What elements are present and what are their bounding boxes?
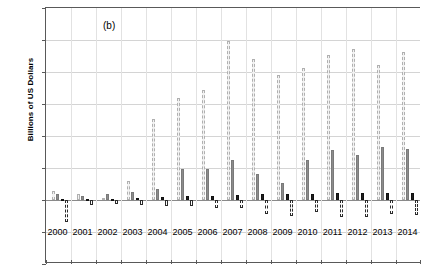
x-tick-mark-2011: [321, 260, 322, 264]
bar-series-3-2011: [336, 193, 339, 200]
bar-series-1-2010: [302, 68, 305, 200]
gridline-vertical-2005: [171, 8, 172, 262]
bar-series-3-2013: [386, 193, 389, 200]
bar-series-1-2011: [327, 55, 330, 200]
bar-series-1-2014: [402, 52, 405, 200]
x-tick-mark-2012: [346, 260, 347, 264]
bar-series-2-2000: [56, 194, 59, 200]
bar-series-3-2000: [61, 199, 64, 201]
x-tick-mark-2002: [96, 260, 97, 264]
bar-series-3-2001: [86, 199, 89, 201]
bar-series-1-2005: [177, 98, 180, 200]
bar-series-4-2012: [365, 200, 368, 217]
bar-series-4-2005: [190, 200, 193, 206]
x-tick-mark-2008: [246, 260, 247, 264]
bar-series-4-2007: [240, 200, 243, 208]
bar-series-1-2000: [52, 191, 55, 200]
x-tick-mark-2009: [271, 260, 272, 264]
bar-series-3-2006: [211, 196, 214, 200]
bar-series-4-2010: [315, 200, 318, 212]
bar-series-2-2007: [231, 160, 234, 200]
bar-series-2-2004: [156, 189, 159, 200]
y-tick-mark-300: [42, 8, 46, 9]
x-tick-mark-2014: [396, 260, 397, 264]
x-tick-mark-2013: [371, 260, 372, 264]
bar-series-2-2010: [306, 160, 309, 200]
bar-series-3-2004: [161, 197, 164, 200]
gridline-vertical-2009: [271, 8, 272, 262]
bar-series-3-2010: [311, 194, 314, 200]
bar-series-2-2003: [131, 192, 134, 200]
bar-series-2-2013: [381, 147, 384, 200]
bar-series-4-2013: [390, 200, 393, 214]
bar-series-1-2006: [202, 90, 205, 200]
gridline-250: [46, 40, 420, 41]
gridline-vertical-2008: [246, 8, 247, 262]
y-tick-mark-100: [42, 136, 46, 137]
y-tick-mark-150: [42, 104, 46, 105]
bar-series-4-2006: [215, 200, 218, 208]
gridline-150: [46, 104, 420, 105]
bar-series-1-2008: [252, 59, 255, 200]
y-tick-mark-0: [42, 200, 46, 201]
gridline-100: [46, 136, 420, 137]
gridline-vertical-2002: [96, 8, 97, 262]
bar-series-3-2012: [361, 193, 364, 200]
bar-series-3-2014: [411, 193, 414, 200]
bar-series-3-2007: [236, 195, 239, 200]
y-tick-mark-200: [42, 72, 46, 73]
gridline-vertical-2011: [321, 8, 322, 262]
y-tick-mark--100: [42, 264, 46, 265]
bar-series-1-2002: [102, 198, 105, 200]
y-tick-mark-50: [42, 168, 46, 169]
bar-series-3-2005: [186, 196, 189, 200]
bar-series-3-2003: [136, 198, 139, 200]
x-tick-mark-2010: [296, 260, 297, 264]
bar-series-4-2014: [415, 200, 418, 215]
bar-series-2-2002: [106, 194, 109, 200]
bar-series-1-2004: [152, 119, 155, 200]
bar-series-4-2002: [115, 200, 118, 204]
bar-series-2-2014: [406, 149, 409, 200]
bar-series-2-2005: [181, 169, 184, 200]
y-tick-mark-250: [42, 40, 46, 41]
bar-series-1-2013: [377, 65, 380, 200]
x-tick-mark-2003: [121, 260, 122, 264]
x-tick-mark-2006: [196, 260, 197, 264]
gridline-vertical-2001: [71, 8, 72, 262]
bar-series-2-2012: [356, 155, 359, 200]
gridline-vertical-2012: [346, 8, 347, 262]
x-tick-mark-end: [420, 260, 421, 264]
bar-series-4-2011: [340, 200, 343, 217]
gridline-200: [46, 72, 420, 73]
bar-series-4-2004: [165, 200, 168, 206]
bar-series-1-2003: [127, 181, 130, 200]
panel-label: (b): [103, 20, 115, 31]
bar-series-1-2007: [227, 41, 230, 200]
x-tick-mark-2007: [221, 260, 222, 264]
x-tick-mark-2001: [71, 260, 72, 264]
bar-series-4-2001: [90, 200, 93, 205]
x-tick-mark-2000: [46, 260, 47, 264]
gridline-vertical-2006: [196, 8, 197, 262]
bar-series-1-2009: [277, 75, 280, 200]
bar-series-1-2012: [352, 49, 355, 200]
bar-series-4-2003: [140, 200, 143, 205]
y-axis-title: Billions of US Dollars: [26, 15, 35, 185]
x-tick-mark-2004: [146, 260, 147, 264]
plot-area: (b) −100−50050100150200250300: [45, 7, 420, 263]
gridline-vertical-2013: [371, 8, 372, 262]
gridline-vertical-2003: [121, 8, 122, 262]
bar-series-2-2006: [206, 169, 209, 200]
gridline-vertical-2004: [146, 8, 147, 262]
bar-series-2-2009: [281, 183, 284, 200]
bar-series-3-2008: [261, 194, 264, 200]
bar-series-1-2001: [77, 194, 80, 200]
bar-series-3-2009: [286, 194, 289, 200]
bar-series-4-2008: [265, 200, 268, 214]
x-tick-mark-2005: [171, 260, 172, 264]
bar-series-2-2001: [81, 196, 84, 200]
gridline-vertical-2007: [221, 8, 222, 262]
x-tick-label-2014: 2014: [391, 228, 425, 237]
